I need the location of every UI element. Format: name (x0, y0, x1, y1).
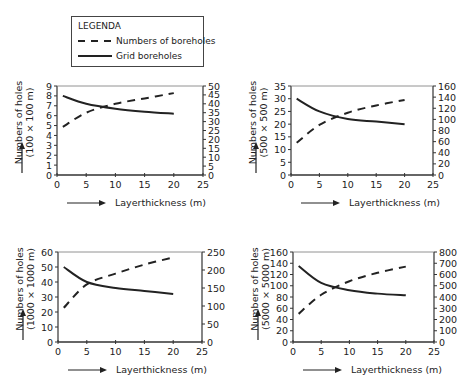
y-axis-label: Numbers of holes(100 × 100 m) (13, 81, 35, 165)
right-y-tick-label: 700 (439, 258, 457, 269)
x-axis-label: Layerthickness (m) (115, 197, 206, 208)
right-y-tick-label: 100 (438, 114, 456, 125)
left-y-tick-label: 9 (46, 81, 52, 92)
chart-4: 0510152025020406080100120140160010020030… (249, 247, 457, 376)
right-y-tick-label: 500 (439, 280, 457, 291)
left-y-tick-label: 60 (41, 247, 53, 258)
x-tick-label: 5 (318, 346, 324, 357)
x-tick-label: 20 (400, 346, 412, 357)
left-y-tick-label: 5 (46, 120, 52, 131)
x-axis-label: Layerthickness (m) (351, 364, 442, 375)
right-y-tick-label: 120 (438, 103, 456, 114)
x-tick-label: 0 (288, 179, 294, 190)
right-y-tick-label: 100 (439, 325, 457, 336)
left-y-tick-label: 20 (274, 119, 286, 130)
left-y-tick-label: 8 (46, 90, 52, 101)
left-y-tick-label: 25 (274, 106, 286, 117)
right-y-tick-label: 80 (438, 125, 450, 136)
x-tick-label: 0 (55, 346, 61, 357)
right-y-tick-label: 0 (439, 337, 445, 348)
y-axis-label: Numbers of holes(500 × 500 m) (247, 81, 269, 165)
left-y-tick-label: 15 (274, 131, 286, 142)
left-y-tick-label: 30 (41, 292, 53, 303)
right-y-tick-label: 150 (207, 283, 225, 294)
chart-2: 0510152025051015202530350204060801001201… (247, 81, 456, 209)
x-tick-label: 10 (109, 179, 121, 190)
left-y-tick-label: 50 (41, 262, 53, 273)
x-tick-label: 10 (343, 346, 355, 357)
right-y-tick-label: 600 (439, 269, 457, 280)
x-tick-label: 20 (399, 179, 411, 190)
right-y-tick-label: 250 (207, 247, 225, 258)
left-y-tick-label: 2 (46, 150, 52, 161)
left-y-tick-label: 40 (276, 314, 288, 325)
right-y-tick-label: 40 (438, 147, 450, 158)
left-y-tick-label: 0 (280, 170, 286, 181)
left-y-tick-label: 0 (46, 170, 52, 181)
chart-3: 05101520250102030405060050100150200250Nu… (14, 247, 225, 376)
left-y-tick-label: 20 (41, 307, 53, 318)
left-y-tick-label: 1 (46, 160, 52, 171)
left-y-tick-label: 10 (41, 322, 53, 333)
x-tick-label: 25 (196, 346, 208, 357)
left-y-tick-label: 6 (46, 110, 52, 121)
left-y-tick-label: 120 (270, 269, 288, 280)
left-y-tick-label: 5 (280, 157, 286, 168)
grid-boreholes-line (63, 96, 174, 114)
y-axis-label: Numbers of holes(5000 × 5000 m) (249, 247, 271, 331)
right-y-tick-label: 800 (439, 247, 457, 258)
left-y-tick-label: 20 (276, 325, 288, 336)
chart-1: 0510152025012345678905101520253035404550… (13, 81, 220, 209)
x-tick-label: 5 (83, 179, 89, 190)
right-y-tick-label: 0 (207, 337, 213, 348)
left-y-tick-label: 140 (270, 258, 288, 269)
numbers-of-boreholes-line (297, 100, 405, 143)
left-y-tick-label: 35 (274, 81, 286, 92)
x-tick-label: 15 (139, 179, 151, 190)
x-tick-label: 25 (427, 179, 439, 190)
left-y-tick-label: 0 (47, 337, 53, 348)
left-y-tick-label: 10 (274, 144, 286, 155)
left-y-tick-label: 60 (276, 303, 288, 314)
left-y-tick-label: 4 (46, 130, 52, 141)
x-axis-label: Layerthickness (m) (349, 197, 440, 208)
x-tick-label: 5 (84, 346, 90, 357)
right-y-tick-label: 400 (439, 292, 457, 303)
x-tick-label: 10 (342, 179, 354, 190)
x-tick-label: 20 (168, 179, 180, 190)
left-y-tick-label: 7 (46, 100, 52, 111)
right-y-tick-label: 50 (208, 81, 220, 92)
right-y-tick-label: 20 (438, 158, 450, 169)
x-tick-label: 10 (110, 346, 122, 357)
right-y-tick-label: 50 (207, 319, 219, 330)
x-tick-label: 0 (290, 346, 296, 357)
x-tick-label: 20 (167, 346, 179, 357)
numbers-of-boreholes-line (64, 257, 173, 307)
x-tick-label: 15 (138, 346, 150, 357)
left-y-tick-label: 40 (41, 277, 53, 288)
x-tick-label: 0 (54, 179, 60, 190)
right-y-tick-label: 300 (439, 303, 457, 314)
left-y-tick-label: 0 (282, 337, 288, 348)
x-tick-label: 25 (428, 346, 440, 357)
right-y-tick-label: 140 (438, 92, 456, 103)
right-y-tick-label: 100 (207, 301, 225, 312)
grid-boreholes-line (64, 267, 173, 294)
right-y-tick-label: 200 (439, 314, 457, 325)
x-axis-label: Layerthickness (m) (116, 364, 207, 375)
left-y-tick-label: 3 (46, 140, 52, 151)
right-y-tick-label: 160 (438, 81, 456, 92)
x-tick-label: 15 (370, 179, 382, 190)
left-y-tick-label: 160 (270, 247, 288, 258)
right-y-tick-label: 0 (438, 170, 444, 181)
x-tick-label: 15 (372, 346, 384, 357)
x-tick-label: 5 (316, 179, 322, 190)
charts-area: 0510152025012345678905101520253035404550… (0, 0, 471, 392)
left-y-tick-label: 30 (274, 93, 286, 104)
right-y-tick-label: 200 (207, 265, 225, 276)
left-y-tick-label: 80 (276, 292, 288, 303)
x-tick-label: 25 (197, 179, 209, 190)
left-y-tick-label: 100 (270, 280, 288, 291)
right-y-tick-label: 60 (438, 136, 450, 147)
y-axis-label: Numbers of holes(1000 × 1000 m) (14, 247, 36, 331)
